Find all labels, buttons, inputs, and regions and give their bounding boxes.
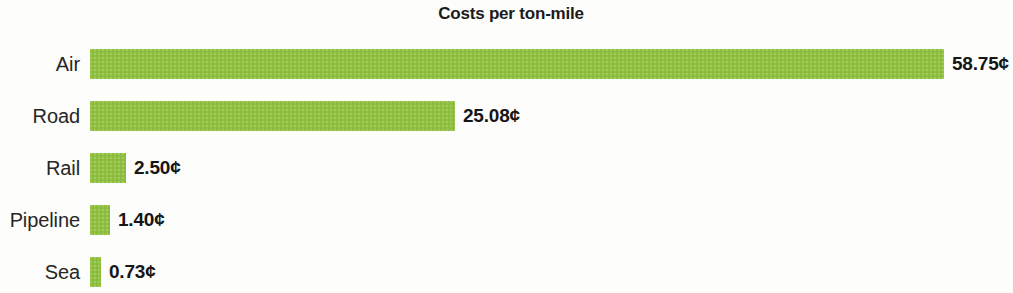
bar-row: Road 25.08¢ (0, 101, 1013, 153)
category-label-road: Road (0, 105, 80, 127)
bar-row: Pipeline 1.40¢ (0, 205, 1013, 257)
value-label-pipeline: 1.40¢ (118, 208, 165, 232)
category-label-sea: Sea (0, 261, 80, 283)
bar-chart: Costs per ton-mile Air 58.75¢ Road 25.08… (0, 0, 1013, 293)
bar-track-road: 25.08¢ (90, 101, 1013, 131)
value-label-air: 58.75¢ (952, 52, 1009, 76)
bar-fill-sea (90, 257, 101, 287)
bar-row: Air 58.75¢ (0, 49, 1013, 101)
bar-row: Rail 2.50¢ (0, 153, 1013, 205)
category-label-rail: Rail (0, 157, 80, 179)
value-label-road: 25.08¢ (463, 104, 520, 128)
category-label-pipeline: Pipeline (0, 209, 80, 231)
value-label-sea: 0.73¢ (109, 260, 156, 284)
bar-track-rail: 2.50¢ (90, 153, 1013, 183)
bar-track-pipeline: 1.40¢ (90, 205, 1013, 235)
bar-fill-road (90, 101, 455, 131)
chart-title: Costs per ton-mile (0, 4, 1013, 24)
value-label-rail: 2.50¢ (134, 156, 181, 180)
bar-track-air: 58.75¢ (90, 49, 1013, 79)
bar-fill-rail (90, 153, 126, 183)
bar-fill-pipeline (90, 205, 110, 235)
chart-plot-area: Air 58.75¢ Road 25.08¢ Rail 2.50¢ Pipeli… (0, 49, 1013, 293)
bar-row: Sea 0.73¢ (0, 257, 1013, 293)
category-label-air: Air (0, 53, 80, 75)
bar-fill-air (90, 49, 944, 79)
bar-track-sea: 0.73¢ (90, 257, 1013, 287)
